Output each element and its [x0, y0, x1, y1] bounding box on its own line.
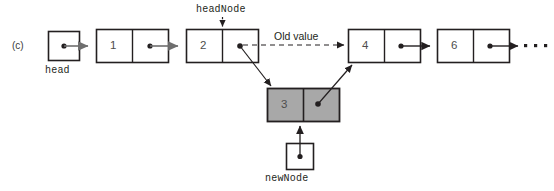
- old-value-label: Old value: [274, 31, 318, 42]
- ellipsis-dots: [524, 44, 547, 47]
- node-6-value: 6: [451, 40, 457, 52]
- panel-label: (c): [12, 41, 24, 51]
- node-2-value: 2: [200, 40, 206, 52]
- linked-list-figure: (c) 1 2 3 4 6 head headNode Old value ne…: [0, 0, 554, 191]
- node-2: [187, 30, 259, 63]
- node-4-value: 4: [362, 40, 368, 52]
- newnode-label: newNode: [265, 174, 308, 184]
- head-label: head: [45, 66, 70, 76]
- node-1-value: 1: [110, 40, 116, 52]
- diagram-svg: [0, 0, 554, 191]
- node-3-new-value: 3: [281, 99, 287, 111]
- headnode-label: headNode: [196, 5, 246, 15]
- node-3-new: [268, 89, 340, 122]
